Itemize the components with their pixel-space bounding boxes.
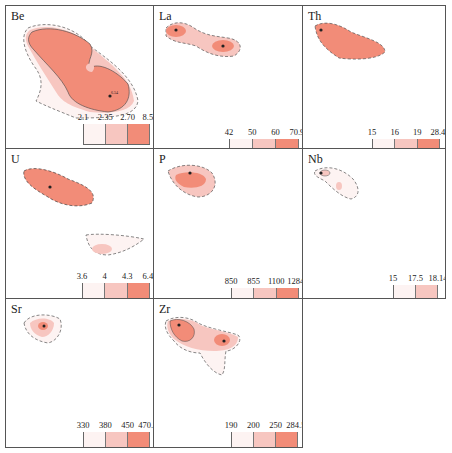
legend-tick: 15 xyxy=(389,273,398,283)
panel-label: Zr xyxy=(159,302,170,317)
legend-tick: 3.6 xyxy=(77,271,88,281)
legend-ticks: 3.6 4 4.3 6.43 xyxy=(82,271,150,283)
legend-tick: 1284.5 xyxy=(287,276,303,286)
legend-tick: 330 xyxy=(77,420,90,430)
panel-label: La xyxy=(159,9,172,24)
legend-swatch-low xyxy=(83,283,105,299)
legend-tick: 4 xyxy=(103,271,107,281)
legend-tick: 2.70 xyxy=(120,112,135,122)
legend-tick: 380 xyxy=(99,420,112,430)
legend-bar xyxy=(83,432,150,448)
legend: 190 200 250 284.52 xyxy=(231,420,298,448)
legend: 3.6 4 4.3 6.43 xyxy=(82,271,150,299)
legend-swatch-high xyxy=(128,283,150,299)
legend-tick: 4.3 xyxy=(122,271,133,281)
panel-label: Nb xyxy=(308,152,323,167)
panel-p: P 850 855 1100 1284.5 xyxy=(153,148,303,299)
legend-swatch-high xyxy=(276,432,298,448)
legend-tick: 19 xyxy=(413,127,422,137)
legend-swatch-mid xyxy=(106,432,128,448)
legend-tick: 1100 xyxy=(268,276,285,286)
legend-bar xyxy=(231,432,298,448)
svg-text:6.54: 6.54 xyxy=(111,90,118,95)
legend-tick: 16 xyxy=(390,127,399,137)
panel-be: 6.54 Be 2.1 2.35 2.70 8.54 xyxy=(5,5,154,149)
panel-label: P xyxy=(159,152,166,167)
legend-tick: 190 xyxy=(225,420,238,430)
legend: 2.1 2.35 2.70 8.54 xyxy=(83,112,150,145)
legend-swatch-mid xyxy=(105,283,127,299)
panel-label: Be xyxy=(11,9,24,24)
legend-tick: 200 xyxy=(247,420,260,430)
legend-swatch-mid xyxy=(254,432,276,448)
legend-ticks: 2.1 2.35 2.70 8.54 xyxy=(83,112,150,124)
legend-ticks: 190 200 250 284.52 xyxy=(231,420,298,432)
legend-tick: 284.52 xyxy=(286,420,303,430)
legend: 850 855 1100 1284.5 xyxy=(231,276,299,299)
legend-swatch-low xyxy=(394,285,416,299)
legend: 42 50 60 70.91 xyxy=(229,127,299,149)
legend-bar xyxy=(393,285,438,299)
legend-tick: 50 xyxy=(248,127,257,137)
legend-tick: 2.1 xyxy=(78,112,89,122)
panel-label: U xyxy=(11,152,20,167)
legend-tick: 28.45 xyxy=(430,127,446,137)
legend-tick: 855 xyxy=(247,276,260,286)
legend-tick: 42 xyxy=(225,127,234,137)
legend-tick: 15 xyxy=(368,127,377,137)
legend-swatch-low xyxy=(84,432,106,448)
legend-tick: 470.83 xyxy=(138,420,154,430)
legend-swatch-mid xyxy=(106,124,128,144)
element-map-grid: 6.54 Be 2.1 2.35 2.70 8.54 La xyxy=(5,5,446,448)
legend-ticks: 850 855 1100 1284.5 xyxy=(231,276,299,288)
legend-swatch-high xyxy=(128,124,150,144)
panel-u: U 3.6 4 4.3 6.43 xyxy=(5,148,154,299)
legend-tick: 2.35 xyxy=(98,112,113,122)
legend-tick: 60 xyxy=(271,127,280,137)
legend-ticks: 15 16 19 28.45 xyxy=(372,127,440,139)
legend-swatch-high xyxy=(128,432,150,448)
legend-ticks: 42 50 60 70.91 xyxy=(229,127,299,139)
panel-la: La 42 50 60 70.91 xyxy=(153,5,303,149)
legend-bar xyxy=(83,124,150,145)
legend: 15 16 19 28.45 xyxy=(372,127,440,149)
legend-bar xyxy=(82,283,150,299)
legend-swatch-low xyxy=(84,124,106,144)
legend: 15 17.5 18.14 xyxy=(393,273,438,299)
panel-label: Sr xyxy=(11,302,22,317)
panel-th: Th 15 16 19 28.45 xyxy=(302,5,446,149)
legend-tick: 17.5 xyxy=(408,273,423,283)
panel-zr: Zr 190 200 250 284.52 xyxy=(153,298,303,448)
legend-tick: 850 xyxy=(225,276,238,286)
legend-tick: 70.91 xyxy=(289,127,303,137)
legend-tick: 450 xyxy=(121,420,134,430)
legend-ticks: 330 380 450 470.83 xyxy=(83,420,150,432)
panel-nb: Nb 15 17.5 18.14 xyxy=(302,148,446,299)
legend-tick: 250 xyxy=(269,420,282,430)
legend: 330 380 450 470.83 xyxy=(83,420,150,448)
legend-ticks: 15 17.5 18.14 xyxy=(393,273,438,285)
panel-label: Th xyxy=(308,9,321,24)
legend-swatch-mid xyxy=(416,285,438,299)
legend-tick: 18.14 xyxy=(428,273,446,283)
legend-swatch-low xyxy=(232,432,254,448)
panel-sr: Sr 330 380 450 470.83 xyxy=(5,298,154,448)
